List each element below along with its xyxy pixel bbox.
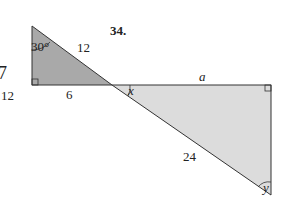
left-triangle (32, 26, 112, 85)
diagram-canvas (0, 0, 285, 198)
problem-number: 34. (110, 24, 126, 37)
left-base-label: 6 (66, 88, 73, 101)
angle-x-label: x (128, 84, 134, 97)
right-triangle (112, 85, 271, 195)
stray-value: 12 (1, 89, 14, 102)
angle-30-label: 30° (31, 40, 49, 53)
side-a-label: a (199, 70, 206, 83)
stray-glyph: 7 (0, 64, 7, 82)
right-hypotenuse-label: 24 (183, 150, 196, 163)
angle-y-label: y (263, 181, 269, 194)
left-hypotenuse-label: 12 (77, 41, 90, 54)
